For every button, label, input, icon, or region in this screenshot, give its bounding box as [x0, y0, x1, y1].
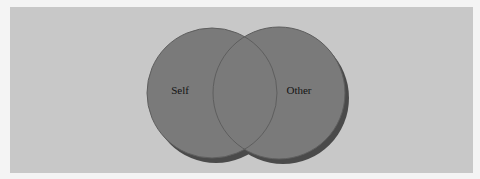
- self-label: Self: [171, 84, 189, 96]
- other-label: Other: [286, 84, 311, 96]
- venn-diagram: Self Other: [0, 0, 480, 179]
- other-circle: [213, 27, 345, 159]
